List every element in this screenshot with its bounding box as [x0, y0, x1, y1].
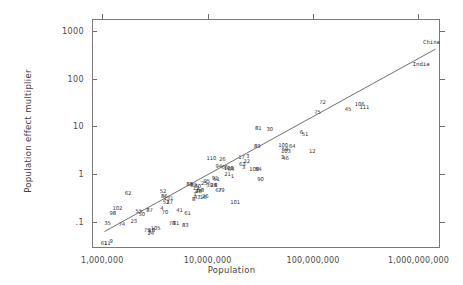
y-tick-label: 100	[68, 74, 84, 83]
data-point-label: 89	[254, 144, 261, 149]
data-point-label: 70	[162, 210, 169, 215]
data-point-label: 9	[110, 239, 113, 244]
data-point-label: 98	[109, 211, 116, 216]
data-point-label: 81	[255, 126, 262, 131]
plot-area-frame: 6111935981026274235550875286131532747075…	[92, 19, 440, 248]
data-point-label: 59	[282, 148, 289, 153]
data-point-label: 8	[192, 197, 195, 202]
data-point-label: 75	[314, 110, 321, 115]
y-axis-title: Population effect multiplier	[23, 31, 33, 231]
y-tick-label: .1	[76, 217, 84, 226]
data-point-label: 87	[146, 209, 153, 214]
data-point-label: 72	[319, 100, 326, 105]
data-point-label: 64	[289, 145, 296, 150]
y-tick-mark-right	[440, 79, 445, 80]
data-point-label: 23	[131, 219, 138, 224]
data-point-label: 50	[138, 212, 145, 217]
data-point-label: 51	[213, 178, 220, 183]
data-point-label: 83	[182, 223, 189, 228]
country-label-china: China	[423, 40, 440, 46]
data-point-label: 102	[112, 206, 122, 211]
data-point-label: 1	[231, 174, 234, 179]
data-point-label: 110	[206, 156, 216, 161]
data-point-label: 90	[257, 177, 264, 182]
x-tick-label: 10,000,000	[184, 256, 232, 265]
data-point-label: 46	[282, 156, 289, 161]
data-point-label: 62	[125, 191, 132, 196]
data-point-label: 101	[230, 200, 240, 205]
data-point-label: 41	[176, 208, 183, 213]
country-label-india: India	[413, 62, 430, 68]
data-point-label: 54	[255, 167, 262, 172]
y-tick-mark-right	[440, 31, 445, 32]
data-point-label: 61	[184, 211, 191, 216]
data-point-label: 27	[166, 200, 173, 205]
scatter-chart-figure: Population effect multiplier Population …	[0, 0, 463, 285]
data-point-label: 30	[266, 127, 273, 132]
x-tick-label: 1,000,000,000	[388, 256, 449, 265]
y-tick-label: 10	[73, 122, 84, 131]
y-tick-mark-right	[440, 126, 445, 127]
data-point-label: 26	[202, 195, 209, 200]
x-axis-title: Population	[0, 265, 463, 275]
data-point-label: 3	[242, 165, 245, 170]
data-point-label: 6	[300, 130, 303, 135]
data-point-layer: 6111935981026274235550875286131532747075…	[93, 20, 439, 247]
x-tick-label: 1,000,000	[81, 256, 124, 265]
data-point-label: 12	[309, 150, 316, 155]
y-tick-mark-right	[440, 174, 445, 175]
data-point-label: 26	[219, 157, 226, 162]
data-point-label: 35	[104, 221, 111, 226]
data-point-label: 111	[359, 106, 369, 111]
data-point-label: 45	[345, 108, 352, 113]
data-point-label: 74	[118, 223, 125, 228]
data-point-label: 79	[218, 188, 225, 193]
y-tick-label: 1000	[62, 27, 84, 36]
y-tick-label: 1	[79, 170, 85, 179]
data-point-label: 105	[151, 227, 161, 232]
y-tick-mark-right	[440, 222, 445, 223]
x-tick-label: 100,000,000	[286, 256, 339, 265]
data-point-label: 31	[173, 222, 180, 227]
